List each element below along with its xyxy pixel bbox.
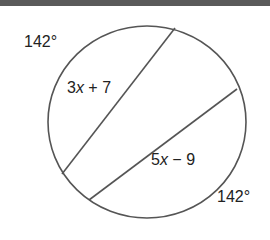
chord-2 xyxy=(89,89,237,200)
chord-1-length-label: 3x + 7 xyxy=(67,80,111,96)
arc-label-top-left: 142° xyxy=(24,34,57,50)
chord-2-length-label: 5x − 9 xyxy=(151,152,195,168)
arc-label-bottom-right: 142° xyxy=(217,189,250,205)
